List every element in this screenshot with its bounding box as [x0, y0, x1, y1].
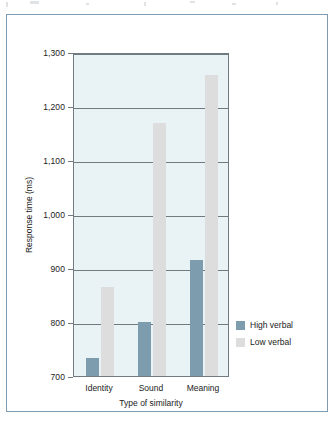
tick-mark: [68, 323, 73, 324]
legend-swatch-icon: [236, 338, 245, 347]
figure-frame: Response time (ms) 7008009001,0001,1001,…: [6, 14, 328, 412]
legend-swatch-icon: [236, 321, 245, 330]
y-axis-title: Response time (ms): [24, 177, 34, 253]
legend-item-high-verbal: High verbal: [236, 320, 293, 330]
legend-label: Low verbal: [250, 337, 291, 347]
legend-item-low-verbal: Low verbal: [236, 337, 293, 347]
x-tick-label-meaning: Meaning: [187, 383, 220, 393]
tick-mark: [68, 269, 73, 270]
bar-sound-low-verbal: [153, 123, 166, 376]
plot-area: [73, 53, 229, 377]
tick-mark: [68, 161, 73, 162]
bar-identity-low-verbal: [101, 287, 114, 376]
y-tick-label: 1,100: [43, 156, 65, 166]
y-tick-label: 800: [51, 318, 65, 328]
bar-meaning-low-verbal: [205, 75, 218, 376]
y-tick-label: 1,300: [43, 48, 65, 58]
y-tick-label: 700: [51, 372, 65, 382]
x-tick-label-sound: Sound: [139, 383, 164, 393]
tick-mark: [68, 215, 73, 216]
bar-meaning-high-verbal: [190, 260, 203, 376]
tick-mark: [68, 107, 73, 108]
tick-mark: [68, 377, 73, 378]
y-tick-label: 1,200: [43, 102, 65, 112]
gridline: [74, 54, 228, 55]
chart-legend: High verbalLow verbal: [236, 320, 293, 354]
legend-label: High verbal: [250, 320, 293, 330]
x-axis-title: Type of similarity: [119, 398, 182, 408]
scan-artifact-strip: [0, 0, 336, 12]
x-tick-label-identity: Identity: [85, 383, 112, 393]
tick-mark: [68, 53, 73, 54]
y-tick-label: 900: [51, 264, 65, 274]
y-tick-label: 1,000: [43, 210, 65, 220]
bar-sound-high-verbal: [138, 322, 151, 376]
bar-identity-high-verbal: [86, 358, 99, 376]
